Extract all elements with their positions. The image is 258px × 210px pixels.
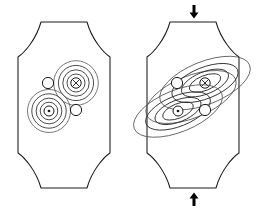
cushion-domain-outline-left — [18, 22, 110, 188]
pinning-site-lower-right-circle — [70, 104, 81, 115]
figure-root — [0, 0, 258, 210]
unstrained-panel — [18, 22, 110, 188]
compression-arrow-bottom — [190, 193, 199, 207]
core-center-dot — [48, 110, 51, 113]
pinning-site-upper-left-circle — [171, 77, 182, 88]
pinning-site-lower-right-circle — [199, 104, 210, 115]
core-center-dot — [177, 110, 180, 113]
compression-arrow-top — [190, 5, 199, 19]
diagram-canvas — [0, 0, 258, 210]
compressed-panel — [126, 5, 257, 206]
pinning-site-upper-left-circle — [42, 77, 53, 88]
